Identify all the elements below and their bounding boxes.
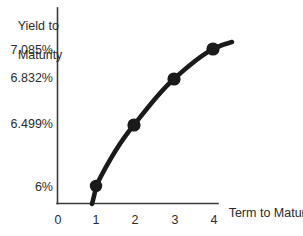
yield-curve-chart: Yield to Maturity Term to Maturity (in y… (0, 0, 303, 235)
data-point-marker (167, 72, 180, 85)
data-point-marker (90, 180, 102, 192)
y-axis-title: Yield to Maturity (4, 4, 62, 77)
x-axis-title: Term to Maturity (in years) (215, 191, 303, 235)
y-tick-label-6: 6% (0, 181, 53, 194)
x-tick-label-3: 3 (165, 214, 185, 227)
x-axis-title-line-1: Term to Maturity (229, 206, 303, 220)
x-tick-label-1: 1 (86, 214, 106, 227)
y-axis-title-line-1: Yield to (18, 19, 59, 33)
data-point-marker (127, 118, 140, 131)
y-tick-label-6499: 6.499% (0, 118, 53, 131)
x-tick-label-4: 4 (204, 214, 224, 227)
x-tick-label-0: 0 (48, 214, 68, 227)
y-tick-label-6832: 6.832% (0, 72, 53, 85)
y-tick-label-7085: 7.085% (0, 44, 53, 57)
data-point-marker (206, 42, 219, 55)
yield-curve-line (92, 42, 232, 204)
x-axis-title-line-2: (in years) (215, 235, 303, 236)
x-tick-label-2: 2 (125, 214, 145, 227)
